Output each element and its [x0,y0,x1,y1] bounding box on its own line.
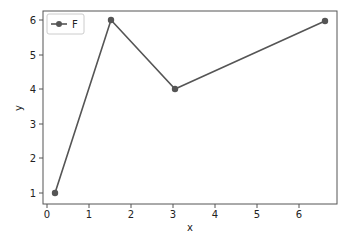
legend-marker-icon [56,21,62,27]
x-tick-label: 5 [254,209,260,220]
data-point [172,86,178,92]
x-tick-label: 1 [86,209,92,220]
y-tick-label: 1 [30,188,36,199]
y-axis-label: y [13,105,24,111]
y-tick-label: 5 [30,50,36,61]
chart: 0 1 2 3 4 5 6 x 6 5 4 3 2 1 y F [0,0,354,242]
x-axis-label: x [187,222,193,233]
x-tick-label: 6 [296,209,302,220]
data-point [108,17,114,23]
y-tick-label: 3 [30,119,36,130]
y-tick-label: 2 [30,153,36,164]
y-tick-label: 6 [30,15,36,26]
plot-area [43,11,337,204]
y-tick-label: 4 [30,84,36,95]
x-tick-label: 3 [170,209,176,220]
y-axis: 6 5 4 3 2 1 y [13,15,43,199]
x-tick-label: 0 [44,209,50,220]
legend: F [47,14,84,34]
x-tick-label: 4 [212,209,218,220]
legend-label: F [72,19,78,30]
data-point [322,18,328,24]
x-tick-label: 2 [128,209,134,220]
x-axis: 0 1 2 3 4 5 6 x [44,204,302,233]
data-point [52,190,58,196]
